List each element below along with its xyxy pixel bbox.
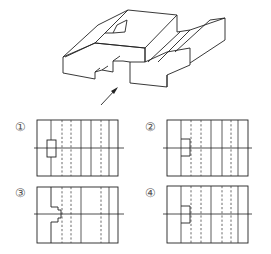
stepped-notch xyxy=(51,187,61,243)
viewing-arrow-icon xyxy=(101,87,118,105)
notch-rect xyxy=(181,206,190,223)
option-4-view[interactable]: ④ xyxy=(145,186,252,243)
option-3-view[interactable]: ③ xyxy=(15,186,124,243)
notch-rect xyxy=(181,139,190,156)
option-1-view[interactable]: ① xyxy=(15,120,124,176)
option-1-label: ① xyxy=(15,120,26,134)
notch-rect xyxy=(47,140,56,157)
option-2-view[interactable]: ② xyxy=(145,120,252,176)
isometric-object xyxy=(63,10,225,87)
option-3-label: ③ xyxy=(15,186,26,200)
option-4-label: ④ xyxy=(145,186,156,200)
drawing-canvas: ① ② ③ ④ xyxy=(0,0,271,254)
option-2-label: ② xyxy=(145,120,156,134)
